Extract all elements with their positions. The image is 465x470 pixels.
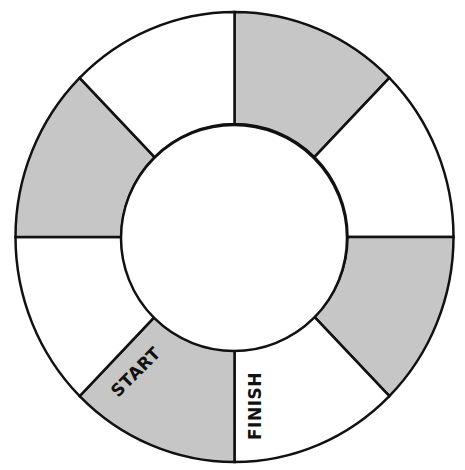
game-board: START FINISH — [0, 0, 465, 470]
center-circle — [121, 125, 347, 351]
finish-label: FINISH — [245, 372, 265, 440]
